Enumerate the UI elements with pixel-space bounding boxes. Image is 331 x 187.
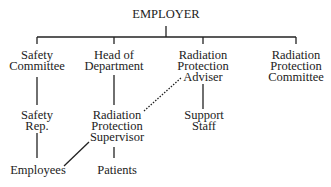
label-line: Supervisor bbox=[90, 132, 144, 143]
label-line: Adviser bbox=[177, 72, 228, 83]
label-line: Staff bbox=[184, 121, 224, 132]
node-patients: Patients bbox=[97, 165, 137, 176]
label-line: Rep. bbox=[21, 121, 53, 132]
label-line: Committee bbox=[9, 61, 65, 72]
label-line: Committee bbox=[268, 72, 324, 83]
node-support-staff: Support Staff bbox=[184, 110, 224, 132]
rps-to-rpa-dotted bbox=[144, 78, 181, 111]
node-rpa: Radiation Protection Adviser bbox=[177, 50, 228, 83]
node-safety-rep: Safety Rep. bbox=[21, 110, 53, 132]
node-rps: Radiation Protection Supervisor bbox=[90, 110, 144, 143]
node-rpc: Radiation Protection Committee bbox=[268, 50, 324, 83]
node-head-of-department: Head of Department bbox=[84, 50, 143, 72]
connector-lines bbox=[0, 0, 331, 187]
rps-to-employees bbox=[64, 142, 89, 166]
node-safety-committee: Safety Committee bbox=[9, 50, 65, 72]
label-line: Department bbox=[84, 61, 143, 72]
node-employees: Employees bbox=[10, 165, 66, 176]
node-employer: EMPLOYER bbox=[132, 9, 199, 20]
